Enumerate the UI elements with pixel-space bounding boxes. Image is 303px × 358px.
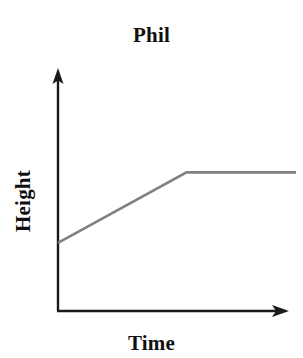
data-line-phil [58, 172, 296, 243]
y-axis-label: Height [12, 131, 34, 271]
chart-figure: Phil Height Time [0, 0, 303, 358]
x-axis-label: Time [0, 330, 303, 356]
plot-area [0, 0, 303, 358]
